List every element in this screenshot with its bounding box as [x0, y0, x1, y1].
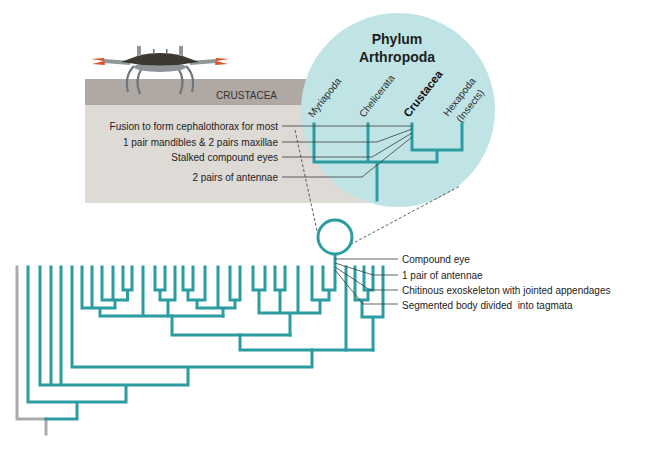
crustacea-trait: 2 pairs of antennae	[192, 172, 278, 183]
main-cladogram	[17, 220, 383, 434]
crustacea-trait: Stalked compound eyes	[171, 152, 278, 163]
arthropoda-inset: Phylum Arthropoda Myriapoda Chelicerata …	[301, 13, 495, 207]
clade-e-branches	[346, 267, 383, 350]
crustacea-trait: Fusion to form cephalothorax for most	[110, 121, 279, 132]
basal-branches	[28, 267, 312, 419]
arthropod-trait: 1 pair of antennae	[402, 270, 483, 281]
arthropod-cladogram-figure: CRUSTACEA Fusion to form cephalothorax f…	[0, 0, 661, 462]
clade-b-branches	[155, 267, 175, 316]
panel-group-label: CRUSTACEA	[216, 90, 277, 101]
arthropoda-node-circle-icon	[318, 220, 352, 254]
arthropod-trait: Segmented body divided into tagmata	[402, 300, 573, 311]
arthropod-trait: Chitinous exoskeleton with jointed appen…	[402, 285, 610, 296]
outgroup-branch	[17, 267, 46, 434]
arthropod-trait: Compound eye	[402, 254, 470, 265]
inset-title-line2: Arthropoda	[359, 49, 435, 65]
crustacea-trait: 1 pair mandibles & 2 pairs maxillae	[123, 137, 279, 148]
clade-c-branches	[172, 267, 290, 335]
inset-title-line1: Phylum	[372, 31, 423, 47]
arthropod-trait-annotations: Compound eye 1 pair of antennae Chitinou…	[335, 254, 610, 311]
